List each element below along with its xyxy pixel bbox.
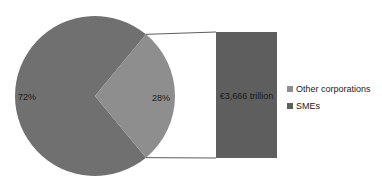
- breakout-bar-label: €3,666 trillion: [220, 91, 274, 101]
- data-label-smes: 72%: [18, 92, 36, 102]
- connector-line-top: [146, 32, 216, 34]
- legend-item-other-corporations: Other corporations: [287, 80, 371, 97]
- legend-label: SMEs: [296, 101, 320, 111]
- legend-swatch: [287, 86, 293, 92]
- legend-item-smes: SMEs: [287, 97, 371, 114]
- legend: Other corporations SMEs: [287, 80, 371, 114]
- data-label-other-corporations: 28%: [152, 93, 170, 103]
- legend-label: Other corporations: [296, 84, 371, 94]
- legend-swatch: [287, 103, 293, 109]
